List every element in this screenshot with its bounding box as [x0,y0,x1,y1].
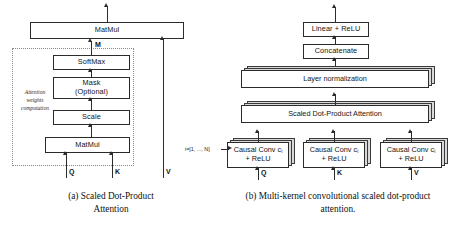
input-v-arrowhead-b [408,166,412,170]
edge-convq-to-sdpa-arrowhead [255,129,259,133]
input-k-arrowhead-b [331,166,335,170]
node-causal-conv-q[interactable]: Causal Conv ci + ReLU [227,138,297,168]
node-mask-label-line2: (Optional) [75,88,108,97]
node-scaled-dot-product-attention[interactable]: Scaled Dot-Product Attention [241,101,435,123]
edge-output-arrowhead-b [332,4,336,8]
edge-scale-to-mask-arrowhead [88,97,92,101]
input-v-label-b: V [414,169,419,176]
edge-output-arrowhead [104,3,108,7]
edge-label-m: M [94,41,102,48]
input-q-label: Q [69,168,74,175]
conv-v-kernel-subscript: i [434,148,435,154]
node-causal-conv-v-label-line2: + ReLU [399,155,424,164]
input-v-label: V [166,168,171,175]
edge-sdpa-to-layernorm-arrowhead [332,92,336,96]
node-layer-normalization-label: Layer normalization [303,75,367,84]
panel-a: Attention weights computation MatMul Sof… [0,0,225,231]
node-causal-conv-q-label-line2: + ReLU [246,155,271,164]
causal-conv-k-front: Causal Conv ci + ReLU [303,142,365,168]
input-v-line [163,39,164,178]
caption-panel-b-line2: attention. [321,204,356,214]
annotation-index-range: i=[1, ..., N] [185,146,210,152]
caption-panel-b: (b) Multi-kernel convolutional scaled do… [207,190,469,215]
edge-convk-to-sdpa-arrowhead [331,129,335,133]
edge-layernorm-to-concat-arrowhead [332,57,336,61]
sdpa-front: Scaled Dot-Product Attention [241,105,429,123]
caption-panel-a-line2: Attention [93,204,128,214]
edge-softmax-to-matmul [91,41,92,55]
node-matmul-bottom-label: MatMul [75,141,100,150]
caption-panel-a: (a) Scaled Dot-Product Attention [6,190,216,215]
node-matmul-top-label: MatMul [95,26,120,35]
caption-panel-a-line1: (a) Scaled Dot-Product [68,191,154,201]
node-layer-normalization[interactable]: Layer normalization [241,66,435,88]
input-k-label: K [115,168,120,175]
causal-conv-v-front: Causal Conv ci + ReLU [380,142,442,168]
node-causal-conv-v[interactable]: Causal Conv ci + ReLU [380,138,450,168]
edge-convv-to-sdpa-arrowhead [408,129,412,133]
annotation-index-arrowhead [228,146,232,150]
group-label-line1: Attention [25,89,46,95]
input-k-label-b: K [337,169,342,176]
node-scale-label: Scale [82,113,101,122]
input-q-arrowhead-b [255,166,259,170]
attention-weights-group-label: Attention weights computation [14,88,56,112]
input-q-line [66,153,67,178]
figure-canvas: Attention weights computation MatMul Sof… [0,0,470,231]
node-concatenate-label: Concatenate [315,47,357,56]
node-causal-conv-k-label-line2: + ReLU [322,155,347,164]
input-q-label-b: Q [261,169,266,176]
node-softmax-label: SoftMax [78,58,105,67]
input-k-arrowhead [109,151,113,155]
input-v-arrowhead [160,36,164,40]
group-label-line3: computation [21,105,49,111]
caption-panel-b-line1: (b) Multi-kernel convolutional scaled do… [246,191,431,201]
layer-normalization-front: Layer normalization [241,70,429,88]
node-scaled-dot-product-attention-label: Scaled Dot-Product Attention [288,110,382,119]
edge-output-line-b [335,7,336,22]
input-k-line [112,153,113,178]
conv-k-kernel-subscript: i [357,148,358,154]
conv-q-kernel-subscript: i [281,148,282,154]
node-linear-relu-label: Linear + ReLU [312,25,361,34]
group-label-line2: weights [26,97,43,103]
panel-b: Linear + ReLU Concatenate Layer normaliz… [225,0,470,231]
node-mask[interactable]: Mask (Optional) [53,77,130,99]
input-q-arrowhead [63,151,67,155]
edge-output-line [107,6,108,22]
node-causal-conv-k[interactable]: Causal Conv ci + ReLU [303,138,373,168]
edge-softmax-to-matmul-arrowhead [88,38,92,42]
edge-concat-to-linear-arrowhead [332,35,336,39]
edge-matmul-to-scale-arrowhead [88,123,92,127]
edge-mask-to-softmax-arrowhead [88,68,92,72]
causal-conv-q-front: Causal Conv ci + ReLU [227,142,289,168]
node-matmul-bottom[interactable]: MatMul [45,137,130,153]
